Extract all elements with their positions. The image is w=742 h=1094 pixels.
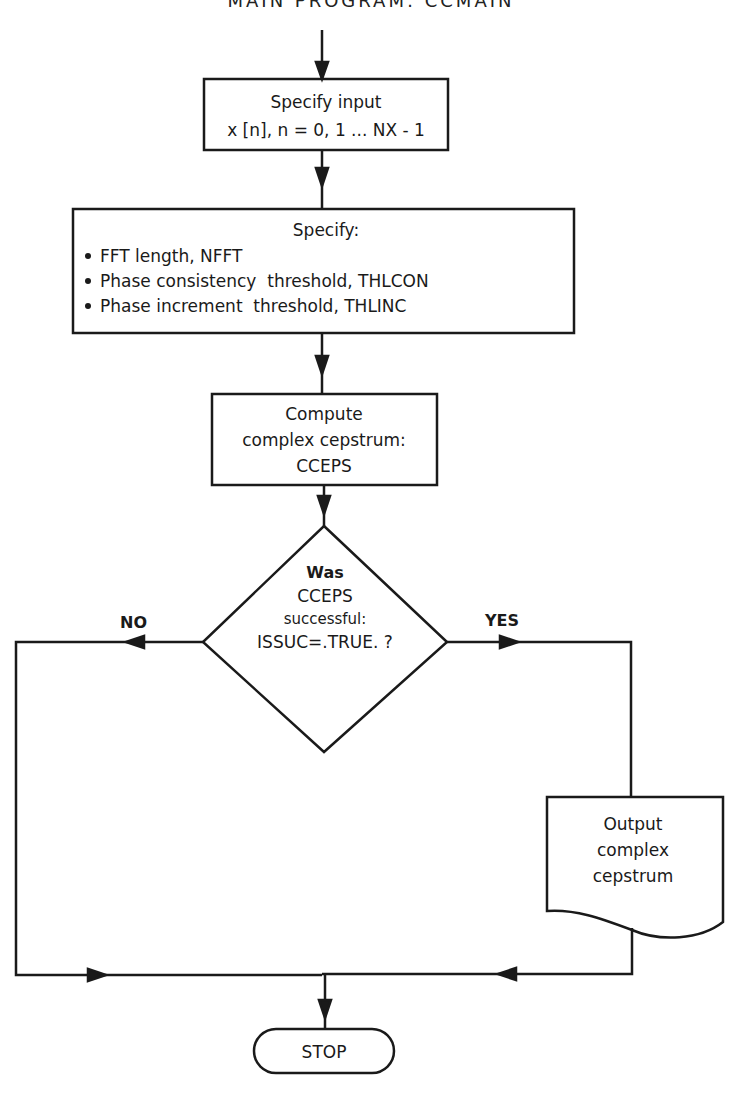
compute-line-3: CCEPS: [296, 456, 352, 476]
stop-label: STOP: [302, 1042, 347, 1062]
no-label: NO: [120, 613, 147, 632]
bullet-icon: [85, 278, 91, 284]
arrow-head-left-icon: [498, 968, 516, 980]
compute-line-2: complex cepstrum:: [242, 430, 406, 450]
output-line-3: cepstrum: [593, 866, 673, 886]
yes-label: YES: [484, 611, 519, 630]
arrow-head-icon: [316, 62, 328, 79]
decision-line-4: ISSUC=.TRUE. ?: [257, 632, 393, 652]
compute-line-1: Compute: [285, 404, 363, 424]
arrow-head-icon: [316, 168, 328, 186]
arrow-head-right-icon: [500, 636, 518, 648]
decision-line-2: CCEPS: [297, 586, 353, 606]
decision-line-3: successful:: [284, 610, 367, 628]
arrow-head-right-icon: [88, 969, 106, 981]
bullet-icon: [85, 303, 91, 309]
params-heading: Specify:: [293, 220, 359, 240]
no-branch-connector: [16, 642, 322, 975]
yes-branch-connector: [447, 642, 631, 797]
params-bullet-2: Phase consistency threshold, THLCON: [100, 271, 429, 291]
flowchart: Specify input x [n], n = 0, 1 ... NX - 1…: [0, 0, 742, 1094]
input-line-1: Specify input: [271, 92, 382, 112]
arrow-head-icon: [318, 496, 330, 514]
input-line-2: x [n], n = 0, 1 ... NX - 1: [227, 120, 425, 140]
arrow-head-left-icon: [126, 636, 144, 648]
arrow-head-icon: [319, 1000, 331, 1018]
params-bullet-3: Phase increment threshold, THLINC: [100, 296, 406, 316]
params-bullet-1: FFT length, NFFT: [100, 246, 243, 266]
output-line-1: Output: [603, 814, 662, 834]
bullet-icon: [85, 253, 91, 259]
arrow-head-icon: [316, 356, 328, 374]
decision-line-1: Was: [306, 563, 343, 582]
output-merge-connector: [322, 928, 632, 974]
output-line-2: complex: [597, 840, 669, 860]
